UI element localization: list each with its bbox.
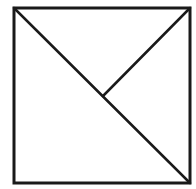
partial-diagonal-line [103,8,190,96]
diagram-canvas [0,0,196,189]
